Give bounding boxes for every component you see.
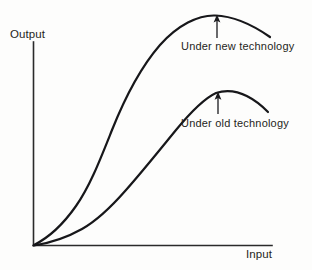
curve-under-old-technology: [34, 91, 268, 245]
y-axis-label: Output: [10, 29, 45, 41]
x-axis-label: Input: [246, 249, 272, 261]
arrow-up-icon-old-technology: [215, 92, 222, 115]
production-function-figure: Output Input Under new technology Under …: [0, 0, 312, 270]
arrow-up-icon-new-technology: [214, 15, 221, 39]
annotation-label-new-technology: Under new technology: [181, 41, 294, 52]
annotation-label-old-technology: Under old technology: [181, 118, 289, 129]
